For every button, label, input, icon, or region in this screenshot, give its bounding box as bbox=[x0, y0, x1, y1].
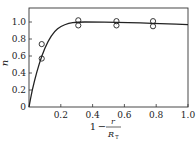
x-axis-label: 1 − r R T bbox=[90, 117, 121, 140]
y-tick-label: 0.4 bbox=[12, 68, 27, 78]
y-tick-label: 0 bbox=[20, 102, 26, 112]
y-axis-label: n bbox=[0, 60, 10, 66]
data-point-circle bbox=[39, 42, 44, 47]
svg-text:R: R bbox=[107, 130, 114, 139]
x-tick-label: 0.6 bbox=[117, 110, 132, 120]
y-tick-label: 1.0 bbox=[12, 17, 27, 27]
x-tick-label: 0.2 bbox=[54, 110, 68, 120]
data-point-circle bbox=[76, 23, 81, 28]
x-tick-label: 1.0 bbox=[181, 110, 196, 120]
x-tick-label: 0.4 bbox=[85, 110, 100, 120]
x-axis-ticks: 0.20.40.60.81.0 bbox=[54, 104, 196, 120]
fitted-curve bbox=[29, 22, 188, 107]
y-tick-label: 0.8 bbox=[12, 34, 27, 44]
svg-text:r: r bbox=[111, 117, 116, 126]
y-tick-label: 0.2 bbox=[12, 85, 26, 95]
data-point-circle bbox=[150, 24, 155, 29]
svg-text:1: 1 bbox=[90, 121, 96, 132]
chart: 0.20.40.60.81.0 00.20.40.60.81.0 n 1 − r… bbox=[0, 0, 196, 144]
svg-text:−: − bbox=[98, 121, 106, 132]
x-tick-label: 0.8 bbox=[149, 110, 164, 120]
y-tick-label: 0.6 bbox=[12, 51, 27, 61]
data-points bbox=[39, 18, 155, 61]
svg-text:T: T bbox=[115, 134, 119, 140]
